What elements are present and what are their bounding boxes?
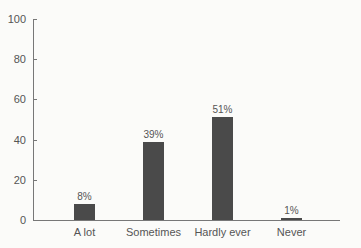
y-tick: [33, 59, 37, 60]
y-tick-label: 100: [0, 13, 26, 25]
bar: [212, 117, 233, 220]
bar-value-label: 1%: [267, 205, 317, 216]
y-tick: [33, 99, 37, 100]
y-tick: [33, 180, 37, 181]
y-tick-label: 80: [0, 53, 26, 65]
x-axis: [33, 220, 340, 221]
y-tick-label: 60: [0, 93, 26, 105]
bar: [143, 142, 164, 220]
y-tick: [33, 140, 37, 141]
category-label: Never: [252, 226, 332, 238]
y-tick-label: 40: [0, 134, 26, 146]
y-tick: [33, 19, 37, 20]
bar: [74, 204, 95, 220]
category-label: Sometimes: [114, 226, 194, 238]
bar-value-label: 39%: [129, 129, 179, 140]
bar: [281, 218, 302, 220]
category-label: A lot: [45, 226, 125, 238]
y-tick-label: 0: [0, 214, 26, 226]
y-tick-label: 20: [0, 174, 26, 186]
bar-value-label: 8%: [60, 191, 110, 202]
y-tick: [33, 220, 37, 221]
y-axis: [33, 19, 34, 220]
bar-chart: 020406080100 8%A lot39%Sometimes51%Hardl…: [0, 0, 361, 248]
category-label: Hardly ever: [183, 226, 263, 238]
bar-value-label: 51%: [198, 104, 248, 115]
